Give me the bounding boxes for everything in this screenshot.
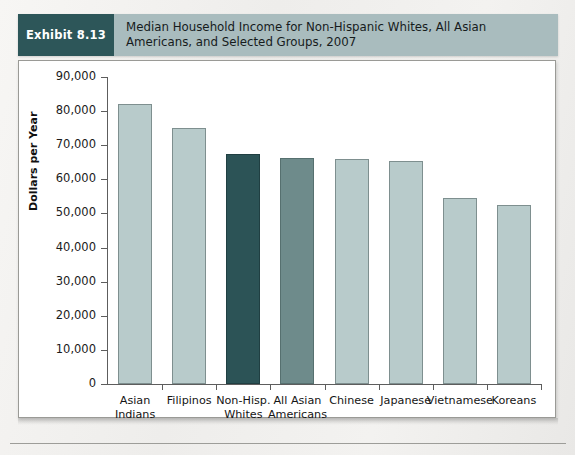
bar-slot [216,77,270,384]
y-axis-tick-label: 30,000 [56,274,96,288]
x-axis-tick [162,384,163,390]
x-axis-tick [379,384,380,390]
bar-slot [325,77,379,384]
x-axis-tick [325,384,326,390]
bar[interactable] [335,159,369,384]
y-axis-tick-label: 90,000 [56,69,96,83]
x-axis-tick [270,384,271,390]
y-axis-title: Dollars per Year [27,112,40,211]
y-axis-tick-label: 50,000 [56,205,96,219]
bar[interactable] [172,128,206,384]
x-axis-tick [487,384,488,390]
y-axis-tick [101,111,108,112]
y-axis-tick-label: 0 [89,376,96,390]
y-axis-tick [101,213,108,214]
bar-slot [379,77,433,384]
y-axis-tick [101,77,108,78]
y-axis-tick [101,282,108,283]
bar-slot [270,77,324,384]
bar-slot [162,77,216,384]
bar[interactable] [226,154,260,384]
y-axis-tick [101,316,108,317]
y-axis-tick [101,350,108,351]
bar-slot [108,77,162,384]
footer-rule [10,443,566,444]
y-axis-tick [101,179,108,180]
y-axis-tick-label: 40,000 [56,240,96,254]
bar[interactable] [280,158,314,384]
bar[interactable] [497,205,531,384]
bar[interactable] [443,198,477,384]
exhibit-page: Exhibit 8.13 Median Household Income for… [0,0,575,455]
y-axis-tick-label: 20,000 [56,308,96,322]
x-axis-tick [433,384,434,390]
exhibit-number-tag: Exhibit 8.13 [18,14,114,56]
chart-figure: Dollars per Year 010,00020,00030,00040,0… [18,60,556,418]
exhibit-title-line-1: Median Household Income for Non-Hispanic… [126,20,548,35]
exhibit-title: Median Household Income for Non-Hispanic… [114,14,558,56]
bar-slot [433,77,487,384]
bar[interactable] [389,161,423,384]
exhibit-header: Exhibit 8.13 Median Household Income for… [18,14,558,56]
bar-slot [487,77,541,384]
x-axis-tick [541,384,542,390]
exhibit-title-line-2: Americans, and Selected Groups, 2007 [126,35,548,50]
y-axis-tick [101,145,108,146]
y-axis-tick [101,248,108,249]
y-axis-tick-label: 60,000 [56,171,96,185]
y-axis-tick-label: 70,000 [56,137,96,151]
bar[interactable] [118,104,152,384]
bar-series [108,77,541,384]
y-axis-tick-label: 80,000 [56,103,96,117]
page-shadow [18,418,558,425]
x-axis-tick [216,384,217,390]
x-axis-label: Koreans [481,394,547,408]
y-axis-tick [101,384,108,385]
y-axis-tick-label: 10,000 [56,342,96,356]
